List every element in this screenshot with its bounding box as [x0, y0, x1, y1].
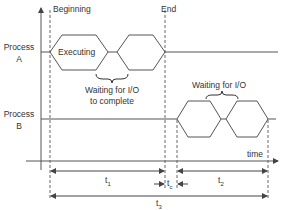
tc-label: tc [167, 179, 172, 190]
process-b-label: Process B [2, 110, 36, 130]
context-switch-diagram [0, 0, 282, 210]
process-b-executing-hexagon [177, 101, 221, 137]
t3-label: t3 [156, 199, 162, 210]
beginning-label: Beginning [53, 5, 91, 14]
process-a-wait-brace [96, 74, 128, 83]
process-b-label-line2: B [2, 122, 36, 131]
waiting-b-label: Waiting for I/O [192, 81, 246, 90]
waiting-a-line2: to complete [80, 97, 144, 106]
end-label: End [161, 5, 176, 14]
time-axis-label: time [247, 150, 263, 159]
t1-label: t1 [105, 176, 111, 187]
waiting-a-label: Waiting for I/O to complete [80, 86, 144, 105]
process-a-label: Process A [2, 43, 36, 63]
process-a-executing-hexagon-2 [117, 35, 165, 70]
process-b-executing-hexagon-2 [226, 101, 268, 137]
waiting-a-line1: Waiting for I/O [80, 86, 144, 95]
process-a-label-line1: Process [2, 43, 36, 52]
t2-label: t2 [218, 176, 224, 187]
process-a-label-line2: A [2, 55, 36, 64]
process-b-label-line1: Process [2, 110, 36, 119]
process-b-wait-brace [206, 91, 238, 99]
executing-label: Executing [58, 48, 95, 57]
